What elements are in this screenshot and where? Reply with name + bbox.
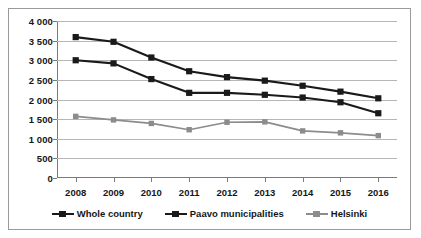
x-tick-mark bbox=[265, 178, 266, 182]
y-tick-label: 3 500 bbox=[9, 35, 53, 46]
series-line bbox=[76, 60, 379, 113]
chart-legend: Whole countryPaavo municipalitiesHelsink… bbox=[9, 208, 410, 219]
chart-container: 05001 0001 5002 0002 5003 0003 5004 000 … bbox=[8, 8, 411, 230]
data-point-marker bbox=[110, 39, 116, 45]
y-tick-label: 4 000 bbox=[9, 16, 53, 27]
y-tick-label: 0 bbox=[9, 173, 53, 184]
legend-label: Helsinki bbox=[331, 208, 367, 219]
x-tick-mark bbox=[76, 178, 77, 182]
data-point-marker bbox=[300, 94, 306, 100]
data-point-marker bbox=[375, 95, 381, 101]
x-tick-label: 2011 bbox=[179, 187, 200, 198]
data-point-marker bbox=[375, 110, 381, 116]
series-paavo-municipalities bbox=[73, 57, 382, 116]
legend-swatch-icon bbox=[52, 209, 74, 218]
x-tick-label: 2009 bbox=[103, 187, 124, 198]
legend-label: Whole country bbox=[77, 208, 143, 219]
data-point-marker bbox=[300, 128, 305, 133]
data-point-marker bbox=[224, 120, 229, 125]
x-tick-label: 2015 bbox=[330, 187, 351, 198]
data-point-marker bbox=[262, 119, 267, 124]
x-tick-mark bbox=[227, 178, 228, 182]
data-point-marker bbox=[186, 90, 192, 96]
legend-label: Paavo municipalities bbox=[190, 208, 284, 219]
x-tick-label: 2012 bbox=[216, 187, 237, 198]
y-tick-label: 3 000 bbox=[9, 55, 53, 66]
data-point-marker bbox=[337, 89, 343, 95]
x-tick-mark bbox=[189, 178, 190, 182]
data-point-marker bbox=[148, 54, 154, 60]
series-line bbox=[76, 37, 379, 98]
series-lines bbox=[57, 21, 397, 178]
x-tick-mark bbox=[114, 178, 115, 182]
x-tick-mark bbox=[303, 178, 304, 182]
data-point-marker bbox=[376, 133, 381, 138]
data-point-marker bbox=[73, 114, 78, 119]
x-tick-mark bbox=[378, 178, 379, 182]
data-point-marker bbox=[111, 117, 116, 122]
data-point-marker bbox=[300, 83, 306, 89]
data-point-marker bbox=[262, 92, 268, 98]
data-point-marker bbox=[73, 57, 79, 63]
y-tick-label: 1 000 bbox=[9, 133, 53, 144]
data-point-marker bbox=[73, 34, 79, 40]
y-tick-label: 2 500 bbox=[9, 74, 53, 85]
series-line bbox=[76, 116, 379, 135]
y-tick-label: 1 500 bbox=[9, 114, 53, 125]
x-tick-mark bbox=[151, 178, 152, 182]
y-tick-label: 500 bbox=[9, 153, 53, 164]
legend-swatch-icon bbox=[306, 209, 328, 218]
data-point-marker bbox=[337, 99, 343, 105]
legend-item-helsinki[interactable]: Helsinki bbox=[306, 208, 367, 219]
x-tick-mark bbox=[340, 178, 341, 182]
data-point-marker bbox=[186, 68, 192, 74]
data-point-marker bbox=[149, 121, 154, 126]
x-tick-label: 2016 bbox=[368, 187, 389, 198]
x-tick-label: 2008 bbox=[65, 187, 86, 198]
data-point-marker bbox=[262, 78, 268, 84]
legend-swatch-icon bbox=[165, 209, 187, 218]
data-point-marker bbox=[148, 76, 154, 82]
y-tick-label: 2 000 bbox=[9, 94, 53, 105]
data-point-marker bbox=[186, 127, 191, 132]
x-tick-label: 2010 bbox=[141, 187, 162, 198]
x-tick-label: 2014 bbox=[292, 187, 313, 198]
series-helsinki bbox=[73, 114, 381, 139]
data-point-marker bbox=[224, 74, 230, 80]
x-tick-label: 2013 bbox=[254, 187, 275, 198]
y-tick-mark bbox=[53, 178, 57, 179]
legend-item-whole-country[interactable]: Whole country bbox=[52, 208, 143, 219]
plot-area bbox=[57, 21, 397, 178]
data-point-marker bbox=[224, 90, 230, 96]
data-point-marker bbox=[110, 60, 116, 66]
data-point-marker bbox=[338, 130, 343, 135]
legend-item-paavo-municipalities[interactable]: Paavo municipalities bbox=[165, 208, 284, 219]
